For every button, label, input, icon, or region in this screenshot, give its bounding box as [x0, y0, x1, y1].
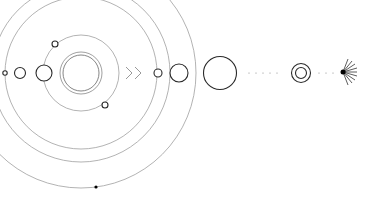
- planet-circle: [3, 71, 7, 75]
- orbit-ring-4: [0, 0, 196, 188]
- planet-circle: [15, 68, 26, 79]
- solar-system-diagram: [0, 0, 380, 205]
- double-chevron-right-icon: [126, 67, 141, 79]
- planet-circle: [170, 64, 188, 82]
- dotted-path: [318, 72, 333, 73]
- planet-circle: [154, 69, 162, 77]
- left-planets: [3, 65, 52, 81]
- planet-circle: [102, 102, 108, 108]
- planet-dot: [94, 185, 97, 188]
- ringed-planet: [292, 64, 311, 83]
- planet-circle: [204, 57, 237, 90]
- orbits: [0, 0, 196, 188]
- planet-circle: [36, 65, 52, 81]
- starburst-icon: [341, 59, 358, 85]
- planet-circle: [52, 41, 58, 47]
- dotted-path: [248, 72, 277, 73]
- diagram-canvas: [0, 0, 380, 205]
- center-body: [60, 52, 102, 94]
